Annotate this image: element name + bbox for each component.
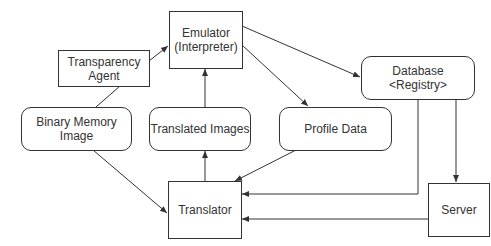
binary-memory-image-label: Binary Memory Image [22,115,131,143]
binary-memory-image-node: Binary Memory Image [21,107,132,151]
edge-emulator-to-database [242,26,360,77]
transparency-agent-label-line2: Agent [68,69,141,83]
profile-data-label: Profile Data [304,122,367,136]
emulator-sublabel: (Interpreter) [174,40,237,54]
edge-emulator-to-profile [242,45,308,106]
transparency-agent-node: Transparency Agent [58,50,150,87]
database-label: Database [389,64,447,78]
emulator-label: Emulator [174,26,237,40]
translated-images-label: Translated Images [151,122,250,136]
profile-data-node: Profile Data [279,107,392,151]
emulator-node: Emulator (Interpreter) [169,11,243,69]
translated-images-node: Translated Images [149,107,251,151]
edge-agent-to-emulator [149,46,168,61]
edge-binary-to-agent [96,86,120,107]
server-node: Server [428,183,490,237]
translator-node: Translator [168,181,242,239]
server-label: Server [441,203,476,217]
edge-binary-to-translator [93,150,167,213]
database-node: Database <Registry> [361,56,475,100]
transparency-agent-label-line1: Transparency [68,55,141,69]
edge-profile-to-translator [235,150,296,181]
translator-label: Translator [178,203,232,217]
database-sublabel: <Registry> [389,78,447,92]
